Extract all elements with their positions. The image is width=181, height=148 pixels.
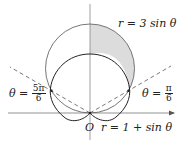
left-ray-label: θ = 5π 6 xyxy=(9,84,46,103)
polar-diagram: r = 3 sin θ O r = 1 + sin θ θ = 5π 6 θ =… xyxy=(0,0,181,148)
right-ray-fraction: π 6 xyxy=(165,84,173,103)
right-ray-prefix: θ = xyxy=(142,87,161,100)
left-ray-denominator: 6 xyxy=(36,94,42,103)
origin-label: O xyxy=(85,122,94,133)
intersection-point-right xyxy=(127,89,130,92)
cardioid-label: r = 1 + sin θ xyxy=(101,122,172,133)
intersection-point-left xyxy=(50,89,53,92)
right-ray-denominator: 6 xyxy=(166,94,172,103)
right-ray-label: θ = π 6 xyxy=(142,84,173,103)
origin-point xyxy=(89,112,92,115)
circle-label: r = 3 sin θ xyxy=(118,18,176,29)
x-axis-arrow-icon xyxy=(169,111,175,116)
left-ray-fraction: 5π 6 xyxy=(32,84,46,103)
left-ray-prefix: θ = xyxy=(9,87,28,100)
